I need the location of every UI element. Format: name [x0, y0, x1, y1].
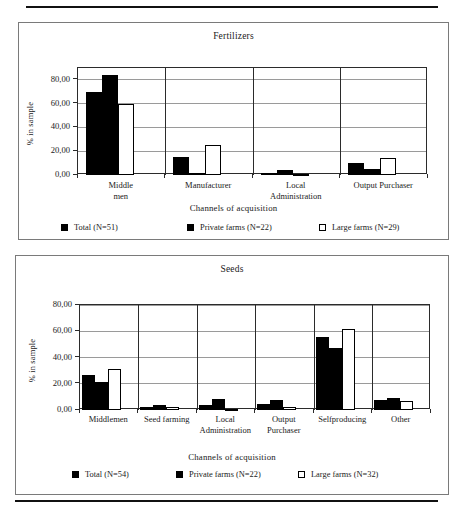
bar — [364, 169, 380, 175]
y-tick-mark — [73, 150, 77, 151]
y-tick-mark — [75, 330, 79, 331]
legend-item: Private farms (N=22) — [187, 223, 272, 232]
bar — [82, 375, 95, 410]
x-category-label: Output Purchaser — [320, 180, 446, 191]
x-tick-mark — [137, 409, 138, 413]
group-separator — [253, 68, 254, 175]
chart-panel-fertilizers: Fertilizers % in sample Channels of acqu… — [18, 22, 449, 240]
legend-fertilizers: Total (N=51)Private farms (N=22)Large fa… — [19, 223, 450, 237]
x-tick-mark — [164, 174, 165, 178]
group-separator — [340, 68, 341, 175]
page-rule-top — [26, 6, 438, 8]
bar — [387, 398, 400, 410]
legend-swatch-icon — [72, 471, 79, 478]
y-tick-label: 0,00 — [19, 169, 70, 179]
bar — [212, 399, 225, 410]
x-tick-mark — [77, 174, 78, 178]
bar — [270, 400, 283, 410]
bar — [153, 405, 166, 410]
chart-title-seeds: Seeds — [16, 264, 448, 274]
bar — [173, 157, 189, 175]
legend-seeds: Total (N=54)Private farms (N=22)Large fa… — [16, 470, 450, 484]
y-tick-label: 40,00 — [19, 121, 70, 131]
legend-item: Private farms (N=22) — [176, 470, 261, 479]
legend-label: Large farms (N=32) — [311, 470, 378, 479]
legend-swatch-icon — [176, 471, 183, 478]
y-tick-label: 80,00 — [16, 299, 72, 309]
group-separator — [314, 305, 315, 410]
chart-panel-seeds: Seeds % in sample Channels of acquisitio… — [15, 255, 449, 495]
bar — [374, 400, 387, 411]
y-tick-label: 60,00 — [16, 325, 72, 335]
group-separator — [255, 305, 256, 410]
y-tick-label: 20,00 — [19, 145, 70, 155]
y-tick-label: 20,00 — [16, 378, 72, 388]
group-separator — [372, 305, 373, 410]
bar — [189, 173, 205, 175]
x-tick-mark — [252, 174, 253, 178]
legend-swatch-icon — [187, 224, 194, 231]
legend-swatch-icon — [298, 471, 305, 478]
plot-area-fertilizers — [77, 67, 427, 174]
x-tick-mark — [79, 409, 80, 413]
chart-title-fertilizers: Fertilizers — [19, 31, 448, 41]
bar — [380, 158, 396, 175]
bar — [277, 170, 293, 175]
bar — [329, 348, 342, 410]
bar — [166, 407, 179, 410]
plot-area-seeds — [79, 304, 430, 409]
legend-item: Large farms (N=32) — [298, 470, 378, 479]
group-separator — [138, 305, 139, 410]
bar — [400, 401, 413, 410]
x-category-label: Other — [359, 414, 443, 425]
y-tick-mark — [75, 382, 79, 383]
bar — [95, 382, 108, 410]
bar — [108, 369, 121, 410]
bar — [102, 75, 118, 175]
bar — [86, 92, 102, 175]
x-axis-title-fertilizers: Channels of acquisition — [19, 203, 448, 213]
y-tick-mark — [73, 126, 77, 127]
x-tick-mark — [254, 409, 255, 413]
bar — [199, 405, 212, 410]
bar — [205, 145, 221, 175]
legend-label: Large farms (N=29) — [332, 223, 399, 232]
x-tick-mark — [427, 174, 428, 178]
y-tick-label: 40,00 — [16, 352, 72, 362]
legend-item: Total (N=51) — [61, 223, 118, 232]
y-tick-label: 0,00 — [16, 404, 72, 414]
x-axis-title-seeds: Channels of acquisition — [16, 452, 448, 462]
x-tick-mark — [339, 174, 340, 178]
bar — [261, 173, 277, 175]
x-tick-mark — [430, 409, 431, 413]
bar — [118, 104, 134, 175]
x-tick-mark — [196, 409, 197, 413]
bar — [283, 407, 296, 410]
legend-label: Total (N=54) — [85, 470, 129, 479]
page-rule-bottom — [15, 500, 438, 502]
group-separator — [165, 68, 166, 175]
y-tick-label: 60,00 — [19, 98, 70, 108]
legend-label: Private farms (N=22) — [200, 223, 272, 232]
bar — [348, 163, 364, 175]
figure-page: Fertilizers % in sample Channels of acqu… — [0, 0, 464, 515]
y-tick-mark — [73, 78, 77, 79]
y-tick-mark — [75, 304, 79, 305]
bar — [316, 337, 329, 411]
bar — [257, 404, 270, 410]
legend-swatch-icon — [319, 224, 326, 231]
legend-item: Large farms (N=29) — [319, 223, 399, 232]
x-tick-mark — [313, 409, 314, 413]
legend-item: Total (N=54) — [72, 470, 129, 479]
legend-label: Total (N=51) — [74, 223, 118, 232]
bar — [225, 409, 238, 411]
bar — [140, 407, 153, 410]
bar — [293, 174, 309, 176]
legend-swatch-icon — [61, 224, 68, 231]
legend-label: Private farms (N=22) — [189, 470, 261, 479]
y-tick-label: 80,00 — [19, 74, 70, 84]
x-tick-mark — [371, 409, 372, 413]
bar — [342, 329, 355, 410]
y-tick-mark — [73, 102, 77, 103]
group-separator — [197, 305, 198, 410]
